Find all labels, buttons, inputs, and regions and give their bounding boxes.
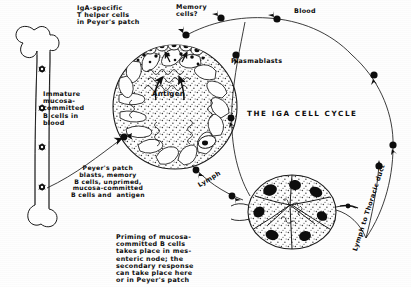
label-immature-b-cells: Immature mucosa- committed B cells in bl… [43, 91, 84, 127]
iga-cell-cycle-illustration [0, 0, 411, 287]
arrowhead [370, 71, 377, 85]
mesenteric-lymph-node-illustration [231, 175, 358, 251]
figure-title: THE IGA CELL CYCLE [247, 110, 358, 118]
arrowhead [212, 10, 225, 22]
arrowhead [178, 26, 190, 39]
label-t-helper-cells: IgA-specific T helper cells in Peyer's p… [77, 5, 140, 27]
flow-blood-right-arc [352, 55, 397, 238]
diagram-page: IgA-specific T helper cells in Peyer's p… [0, 0, 411, 287]
label-antigen: Antigen [152, 91, 185, 99]
label-priming-mesenteric-node: Priming of mucosa- committed B cells tak… [116, 234, 194, 284]
label-plasmablasts: Plasmablasts [231, 58, 282, 65]
arrowhead [268, 11, 281, 23]
label-peyers-patch-blasts: Peyer's patch blasts, memory B cells, un… [71, 165, 145, 199]
label-blood: Blood [294, 8, 316, 15]
label-memory-cells: Memory cells? [176, 4, 207, 18]
peyers-patch-illustration [113, 40, 237, 169]
